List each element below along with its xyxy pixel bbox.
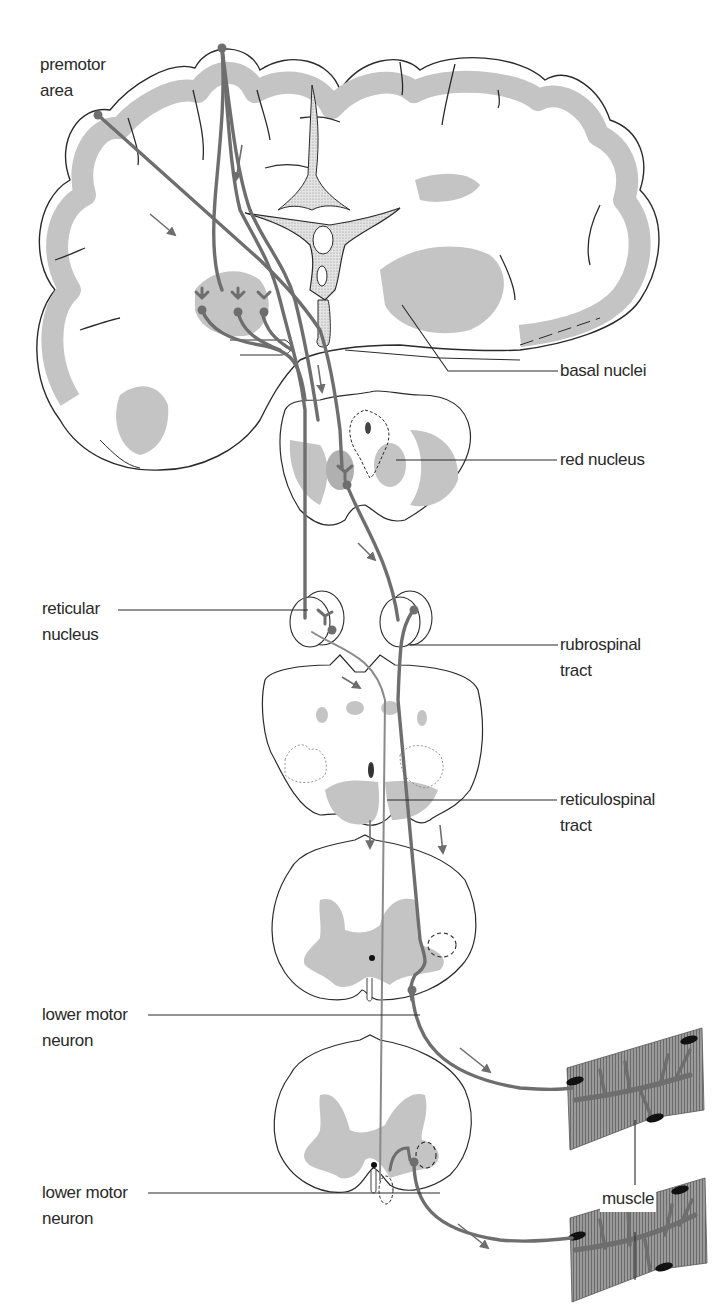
label-rubrospinal-tract: rubrospinaltract [560, 632, 641, 684]
label-basal-nuclei: basal nuclei [560, 358, 646, 384]
spinal-cord-section-lower [274, 1035, 471, 1204]
motor-pathway-diagram: premotorarea basal nuclei red nucleus re… [0, 0, 728, 1309]
midbrain-section [280, 391, 470, 525]
label-reticulospinal-tract: reticulospinaltract [560, 787, 655, 839]
label-muscle: muscle [600, 1186, 656, 1212]
label-reticular-nucleus: reticularnucleus [42, 596, 100, 648]
label-red-nucleus: red nucleus [560, 447, 645, 473]
spinal-cord-section-upper [272, 835, 476, 1001]
red-nucleus-right [374, 443, 406, 487]
reticular-nuclei [290, 591, 432, 647]
label-lower-motor-neuron-2: lower motorneuron [42, 1180, 128, 1232]
label-premotor-area: premotorarea [40, 52, 106, 104]
label-lower-motor-neuron-1: lower motorneuron [42, 1002, 128, 1054]
